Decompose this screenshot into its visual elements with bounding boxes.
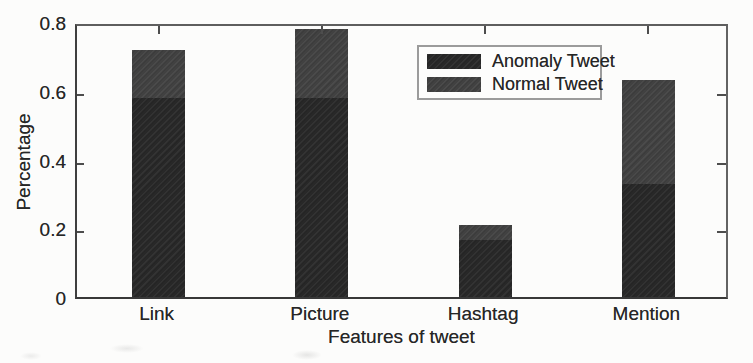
scan-artifact	[20, 352, 42, 360]
bar-segment-anomaly-hashtag	[459, 240, 512, 297]
bar-segment-normal-picture	[295, 29, 348, 98]
category-label-link: Link	[97, 303, 217, 325]
legend-label-anomaly: Anomaly Tweet	[492, 51, 615, 71]
anomaly-tweet-swatch	[427, 54, 481, 69]
y-tick-label-0.4: 0.4	[14, 151, 66, 173]
y-tick-left	[77, 231, 84, 233]
y-tick-left	[77, 94, 84, 96]
category-label-picture: Picture	[260, 303, 380, 325]
legend-label-normal: Normal Tweet	[492, 74, 603, 94]
bar-segment-normal-link	[132, 50, 185, 98]
y-tick-label-0.6: 0.6	[14, 82, 66, 104]
y-tick-label-0: 0	[14, 288, 66, 310]
bar-segment-normal-hashtag	[459, 225, 512, 240]
legend-item-normal: Normal Tweet	[427, 74, 596, 94]
y-tick-right	[717, 163, 726, 165]
legend: Anomaly Tweet Normal Tweet	[417, 45, 602, 100]
x-tick-top	[321, 26, 323, 34]
legend-item-anomaly: Anomaly Tweet	[427, 51, 596, 71]
x-tick-top	[158, 26, 160, 34]
x-tick-top	[647, 26, 649, 34]
bar-segment-normal-mention	[622, 80, 675, 183]
plot-area: Anomaly Tweet Normal Tweet	[75, 24, 728, 299]
y-tick-label-0.2: 0.2	[14, 219, 66, 241]
y-tick-left	[77, 163, 84, 165]
bar-segment-anomaly-picture	[295, 98, 348, 297]
y-tick-label-0.8: 0.8	[14, 13, 66, 35]
bar-segment-anomaly-mention	[622, 184, 675, 297]
x-tick-top	[484, 26, 486, 34]
y-tick-right	[717, 231, 726, 233]
figure-canvas: Anomaly Tweet Normal Tweet Percentage Fe…	[0, 0, 753, 363]
normal-tweet-swatch	[427, 77, 481, 92]
bar-segment-anomaly-link	[132, 98, 185, 297]
y-tick-right	[717, 94, 726, 96]
scan-artifact	[292, 350, 322, 360]
x-axis-title: Features of tweet	[75, 326, 728, 348]
category-label-mention: Mention	[586, 303, 706, 325]
category-label-hashtag: Hashtag	[423, 303, 543, 325]
